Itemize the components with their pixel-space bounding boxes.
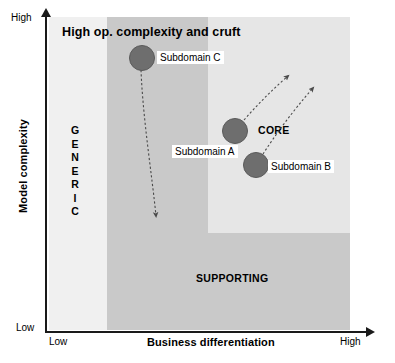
generic-letter: R (68, 178, 82, 192)
generic-letter: E (68, 138, 82, 152)
generic-letter: I (68, 192, 82, 206)
generic-letter: G (68, 124, 82, 138)
chart-title: High op. complexity and cruft (62, 25, 241, 39)
x-axis-tick-low: Low (49, 336, 67, 347)
bubble-subdomain-c[interactable] (129, 45, 155, 71)
x-axis-arrow-icon (366, 327, 375, 337)
x-axis-title: Business differentiation (147, 336, 275, 348)
x-axis-line (45, 331, 370, 333)
y-axis-title: Model complexity (17, 101, 29, 231)
y-axis-tick-high: High (11, 12, 32, 23)
domain-complexity-chart: High Low Low High Model complexity Busin… (0, 0, 395, 363)
y-axis-arrow-icon (41, 8, 51, 17)
generic-letter: E (68, 165, 82, 179)
label-subdomain-b: Subdomain B (268, 160, 334, 173)
region-label-supporting: SUPPORTING (196, 272, 268, 284)
bubble-subdomain-b[interactable] (243, 152, 269, 178)
generic-letter: N (68, 151, 82, 165)
generic-letter: C (68, 205, 82, 219)
region-label-core: CORE (258, 124, 290, 136)
x-axis-tick-high: High (340, 336, 361, 347)
bubble-subdomain-a[interactable] (222, 118, 248, 144)
label-subdomain-a: Subdomain A (172, 145, 238, 158)
label-subdomain-c: Subdomain C (157, 51, 224, 64)
region-label-generic: G E N E R I C (68, 124, 82, 219)
y-axis-line (45, 14, 47, 332)
y-axis-tick-low: Low (16, 322, 34, 333)
